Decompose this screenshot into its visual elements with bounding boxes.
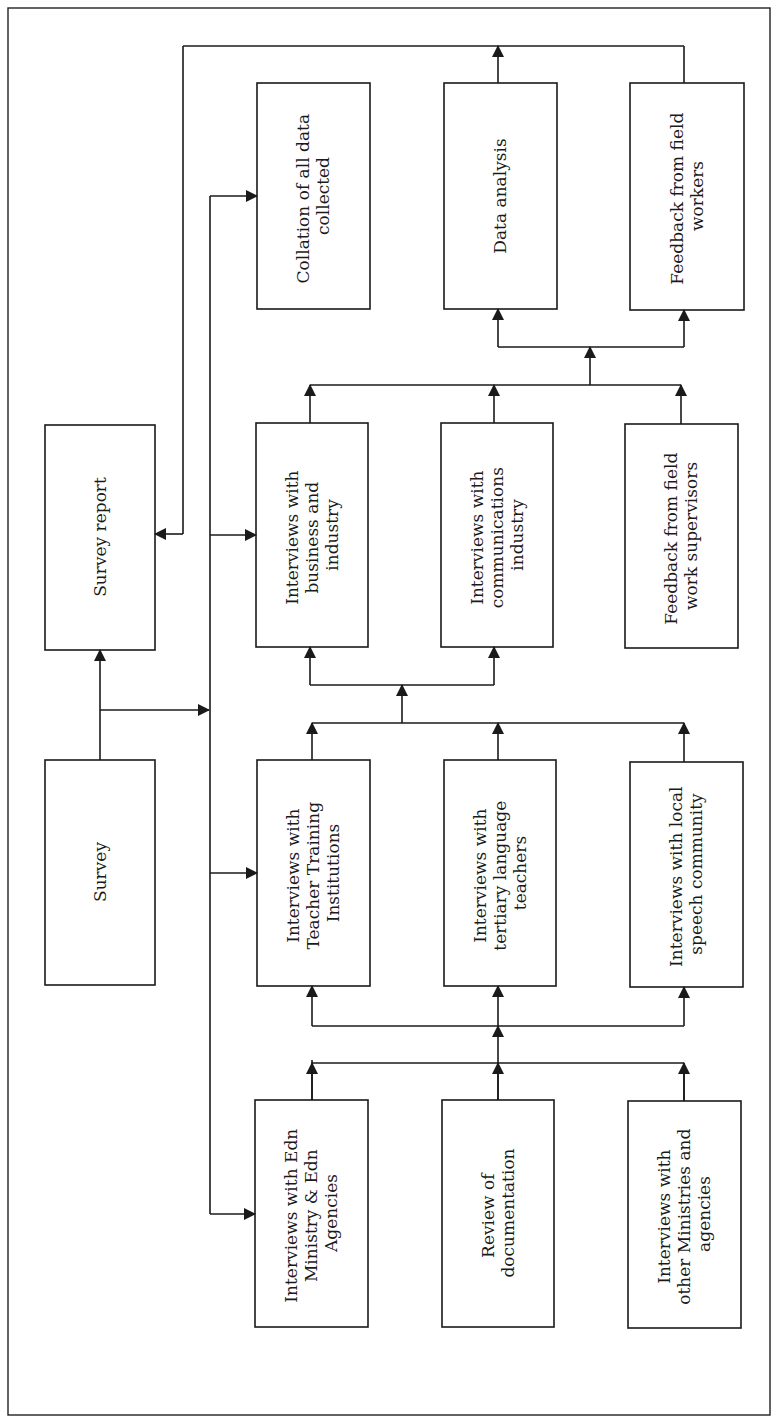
survey-report-label: Survey report	[90, 477, 110, 597]
svg-text:Survey report: Survey report	[90, 477, 110, 597]
survey-label: Survey	[90, 842, 110, 902]
flowchart-canvas: Survey report Survey Collation of all da…	[0, 0, 777, 1420]
svg-text:Data analysis: Data analysis	[490, 138, 510, 253]
connectors	[100, 46, 684, 1214]
data-analysis-label: Data analysis	[490, 138, 510, 253]
svg-text:Interviews with local sp: Interviews with local speech community	[666, 781, 706, 967]
svg-text:Feedback from field work: Feedback from field work supervisors	[661, 447, 701, 624]
svg-text:Survey: Survey	[90, 842, 110, 902]
local-speech-label: Interviews with local speech community	[666, 781, 706, 967]
feedback-supervisors-label: Feedback from field work supervisors	[661, 447, 701, 624]
